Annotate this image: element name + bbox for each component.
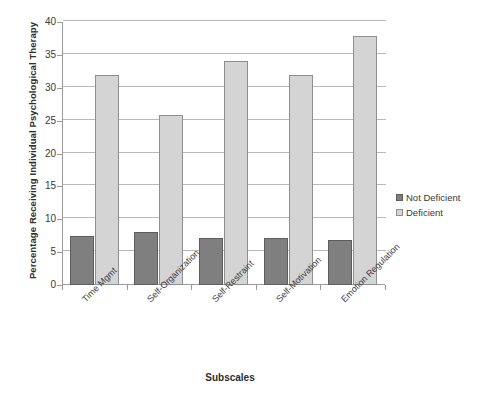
x-axis-tick-mark: [191, 285, 192, 290]
bar-group: [328, 22, 377, 285]
gridline: [63, 20, 386, 21]
bar: [264, 238, 288, 285]
square-swatch-icon: [396, 194, 403, 201]
chart-title-cutoff: [0, 0, 487, 10]
legend-item: Not Deficient: [396, 190, 460, 205]
bar: [328, 240, 352, 285]
y-axis-tick-label: 40: [30, 17, 56, 27]
bar: [199, 238, 223, 285]
bar: [134, 232, 158, 285]
bar: [159, 115, 183, 285]
legend-item: Deficient: [396, 205, 460, 220]
y-axis-tick-label: 5: [30, 247, 56, 257]
x-axis-tick-mark: [385, 285, 386, 290]
y-axis-tick-label: 25: [30, 116, 56, 126]
y-axis-tick-label: 30: [30, 83, 56, 93]
x-axis-title: Subscales: [130, 372, 330, 383]
square-swatch-icon: [396, 209, 403, 216]
y-axis-tick-label: 0: [30, 280, 56, 290]
x-axis-tick-mark: [320, 285, 321, 290]
bar-group: [264, 22, 313, 285]
bar: [224, 61, 248, 285]
x-axis-tick-mark: [256, 285, 257, 290]
bar: [95, 75, 119, 285]
y-axis-tick-label: 10: [30, 214, 56, 224]
bars-layer: [62, 22, 385, 285]
bar-group: [134, 22, 183, 285]
bar: [353, 36, 377, 285]
y-axis-tick-label: 15: [30, 181, 56, 191]
x-axis-tick-mark: [127, 285, 128, 290]
bar-group: [199, 22, 248, 285]
legend-item-label: Not Deficient: [406, 192, 460, 203]
y-axis-tick-label: 35: [30, 50, 56, 60]
legend-item-label: Deficient: [406, 207, 443, 218]
bar-chart: Percentage Receiving Individual Psycholo…: [0, 0, 487, 399]
bar-group: [70, 22, 119, 285]
x-axis-tick-mark: [62, 285, 63, 290]
bar: [289, 75, 313, 285]
chart-legend: Not DeficientDeficient: [396, 190, 460, 220]
y-axis-tick-label: 20: [30, 149, 56, 159]
bar: [70, 236, 94, 285]
